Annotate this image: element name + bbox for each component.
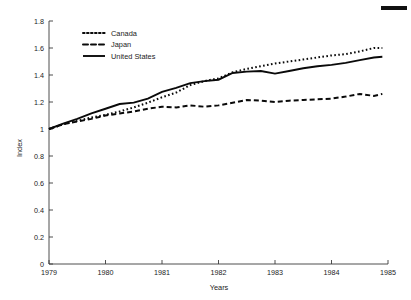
y-tick-label: 1 [40,125,44,134]
x-tick-label: 1985 [380,268,396,277]
y-tick-label: 0.2 [34,233,44,242]
y-tick-label: 0.6 [34,179,44,188]
series-line-united-states [49,57,382,129]
x-tick-label: 1982 [211,268,227,277]
axis-lines [49,21,388,264]
chart-container: 00.20.40.60.811.21.41.61.8 1979198019811… [0,0,411,300]
x-tick-label: 1980 [98,268,114,277]
line-chart: 00.20.40.60.811.21.41.61.8 1979198019811… [0,0,411,300]
x-axis-tick-labels: 1979198019811982198319841985 [41,268,396,277]
y-tick-label: 0.8 [34,152,44,161]
y-tick-label: 1.8 [34,17,44,26]
legend-label-united-states: United States [111,52,156,61]
x-tick-label: 1984 [324,268,340,277]
legend-label-japan: Japan [111,40,131,49]
y-axis-title: Index [15,139,24,157]
y-tick-label: 1.2 [34,98,44,107]
legend-label-canada: Canada [111,29,138,38]
legend: CanadaJapanUnited States [83,29,156,61]
x-axis-ticks [49,260,388,264]
x-axis-title: Years [210,283,229,292]
series-group [49,48,382,129]
y-tick-label: 1.6 [34,44,44,53]
y-axis-ticks [49,21,53,264]
x-tick-label: 1981 [154,268,170,277]
x-tick-label: 1983 [267,268,283,277]
y-tick-label: 0.4 [34,206,44,215]
x-tick-label: 1979 [41,268,57,277]
y-tick-label: 1.4 [34,71,44,80]
corner-mark [381,6,407,10]
y-axis-tick-labels: 00.20.40.60.811.21.41.61.8 [34,17,44,269]
